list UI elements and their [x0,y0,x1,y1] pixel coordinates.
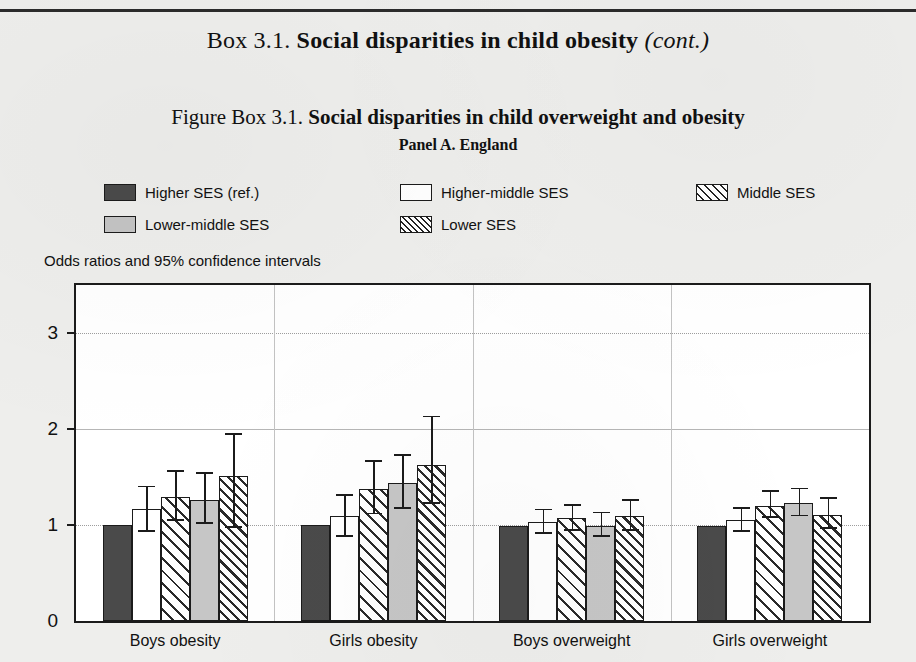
x-category-label-0: Boys obesity [130,632,221,650]
bar-0-0 [103,525,132,621]
legend-swatch-icon [696,184,728,201]
error-bar-3-1 [741,507,742,532]
bar-3-1 [726,520,755,621]
legend-label: Higher-middle SES [441,184,569,201]
error-bar-cap-top [167,470,184,472]
error-bar-cap-top [593,512,610,514]
error-bar-cap-bottom [762,516,779,518]
y-tick-label-0: 0 [18,610,58,632]
y-axis-note: Odds ratios and 95% confidence intervals [44,252,321,269]
x-category-label-3: Girls overweight [713,632,828,650]
error-bar-1-1 [344,494,345,536]
y-tick-label-2: 2 [18,418,58,440]
error-bar-stem [175,470,177,521]
bar-2-0 [499,526,528,621]
legend-item-4: Lower SES [400,216,516,233]
figure-page: Box 3.1. Social disparities in child obe… [0,0,916,662]
error-bar-stem [630,499,632,531]
error-bar-stem [233,433,235,528]
error-bar-cap-bottom [733,530,750,532]
legend-label: Middle SES [737,184,815,201]
group-separator-3 [671,285,672,621]
legend-label: Lower-middle SES [145,216,269,233]
error-bar-0-2 [175,470,176,521]
error-bar-1-4 [431,416,432,504]
bar-2-2 [557,518,586,621]
legend-swatch-icon [104,216,136,233]
error-bar-cap-top [820,497,837,499]
bar-3-2 [755,506,784,621]
figure-title-strong: Social disparities in child overweight a… [308,105,744,129]
y-tick-label-3: 3 [18,322,58,344]
error-bar-cap-bottom [820,527,837,529]
error-bar-stem [373,460,375,515]
error-bar-cap-top [762,490,779,492]
error-bar-stem [146,486,148,532]
error-bar-stem [572,504,574,531]
figure-panel-label: Panel A. England [0,136,916,154]
error-bar-3-3 [799,488,800,517]
error-bar-2-3 [601,512,602,537]
error-bar-cap-bottom [138,530,155,532]
error-bar-cap-top [365,460,382,462]
error-bar-1-2 [373,460,374,515]
error-bar-2-1 [543,509,544,534]
error-bar-cap-top [394,454,411,456]
error-bar-stem [431,416,433,504]
error-bar-cap-top [564,504,581,506]
error-bar-cap-bottom [423,502,440,504]
error-bar-2-2 [572,504,573,531]
chart-legend: Higher SES (ref.)Higher-middle SESMiddle… [104,184,894,246]
error-bar-cap-bottom [365,513,382,515]
error-bar-cap-top [733,507,750,509]
bar-3-0 [697,526,726,621]
error-bar-cap-bottom [225,526,242,528]
x-category-label-1: Girls obesity [329,632,417,650]
x-category-label-2: Boys overweight [513,632,630,650]
error-bar-cap-bottom [535,532,552,534]
group-separator-2 [473,285,474,621]
legend-swatch-icon [104,184,136,201]
error-bar-stem [344,494,346,536]
legend-swatch-icon [400,184,432,201]
error-bar-0-1 [146,486,147,532]
error-bar-cap-bottom [564,529,581,531]
top-divider [0,9,916,12]
error-bar-cap-bottom [336,535,353,537]
error-bar-stem [543,509,545,534]
legend-label: Lower SES [441,216,516,233]
box-title-cont: (cont.) [645,27,710,53]
error-bar-cap-bottom [593,535,610,537]
error-bar-cap-bottom [791,515,808,517]
error-bar-cap-bottom [196,522,213,524]
bar-3-4 [813,515,842,621]
error-bar-cap-top [423,416,440,418]
bar-1-0 [301,525,330,621]
error-bar-stem [770,490,772,518]
error-bar-cap-top [196,472,213,474]
legend-swatch-icon [400,216,432,233]
error-bar-cap-top [225,433,242,435]
error-bar-3-4 [828,497,829,529]
legend-item-3: Lower-middle SES [104,216,269,233]
bar-2-1 [528,522,557,621]
error-bar-stem [799,488,801,517]
error-bar-1-3 [402,454,403,509]
plot-area [74,283,871,623]
error-bar-0-3 [204,472,205,524]
error-bar-0-4 [233,433,234,528]
error-bar-cap-top [336,494,353,496]
figure-title-lead: Figure Box 3.1. [171,105,303,129]
error-bar-cap-bottom [622,529,639,531]
legend-item-0: Higher SES (ref.) [104,184,259,201]
error-bar-stem [601,512,603,537]
legend-label: Higher SES (ref.) [145,184,259,201]
bar-2-3 [586,526,615,621]
legend-item-1: Higher-middle SES [400,184,569,201]
group-separator-1 [274,285,275,621]
legend-item-2: Middle SES [696,184,815,201]
figure-title: Figure Box 3.1. Social disparities in ch… [0,105,916,130]
error-bar-cap-bottom [394,507,411,509]
bar-3-3 [784,503,813,621]
error-bar-2-4 [630,499,631,531]
